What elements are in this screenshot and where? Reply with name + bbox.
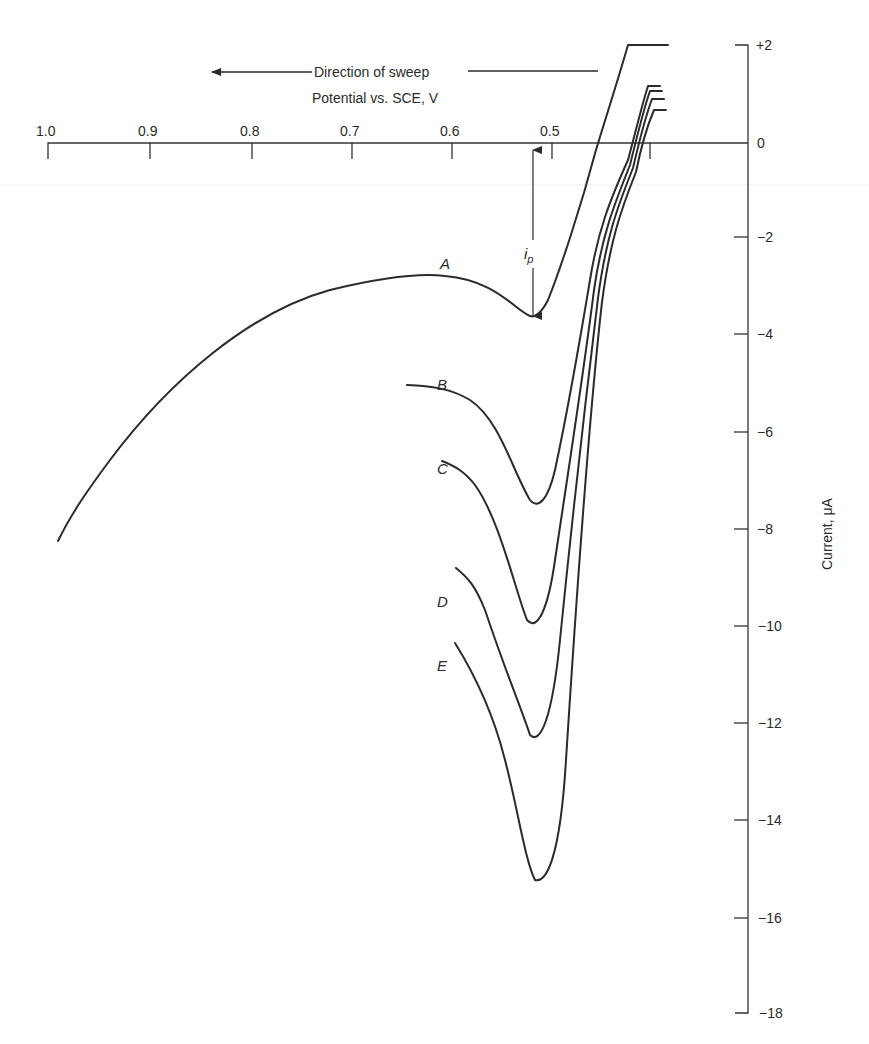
y-tick-label: −8 [757,521,773,537]
curve-c [442,91,662,623]
y-tick-label: −18 [759,1005,783,1021]
y-ticks [734,237,748,918]
peak-current-label: ip [524,245,533,265]
x-tick-label: 0.7 [340,123,360,139]
curve-label-e: E [437,657,448,674]
x-tick-label: 0.9 [138,123,158,139]
curve-label-a: A [439,255,450,272]
x-tick-label: 0.5 [540,123,560,139]
curve-label-d: D [437,593,448,610]
peak-current-annotation: ip [524,150,533,316]
y-tick-label: 0 [757,135,765,151]
curves [58,45,668,880]
y-tick-label: −14 [758,812,782,828]
y-tick-label: −4 [757,326,773,342]
x-ticks [150,143,650,159]
y-axis-label: Current, μA [819,497,835,570]
y-tick-label: −12 [758,715,782,731]
direction-label: Direction of sweep [314,64,429,80]
cyclic-voltammogram-chart: Direction of sweep Potential vs. SCE, V … [0,0,869,1044]
curve-label-b: B [437,376,447,393]
curve-e [455,110,666,880]
y-tick-label: −16 [758,910,782,926]
sweep-direction-annotation: Direction of sweep [212,64,598,80]
y-tick-label: −6 [757,424,773,440]
x-tick-label: 1.0 [36,123,56,139]
x-axis-label: Potential vs. SCE, V [312,90,439,106]
curve-label-c: C [437,460,448,477]
y-tick-label: +2 [756,37,772,53]
x-tick-labels: 1.0 0.9 0.8 0.7 0.6 0.5 [36,123,560,139]
y-tick-label: −10 [758,618,782,634]
curve-a [58,45,668,541]
y-tick-label: −2 [757,229,773,245]
x-tick-label: 0.8 [240,123,260,139]
x-tick-label: 0.6 [440,123,460,139]
